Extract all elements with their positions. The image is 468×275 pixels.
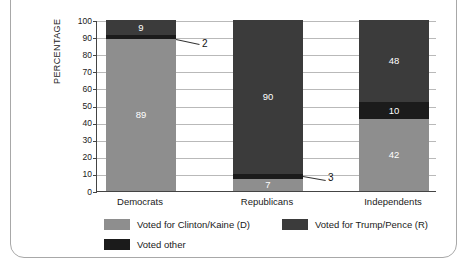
plot-area: 9 2 89 2 90 3 7 3	[96, 21, 436, 192]
callout-democrats-other: 2	[202, 39, 208, 49]
legend-label-other: Voted other	[137, 239, 186, 250]
segment-label-independents-other: 10	[389, 106, 400, 116]
tick-mark-0	[93, 192, 97, 193]
bar-democrats[interactable]: 9 2 89	[106, 20, 176, 191]
segment-label-republicans-clinton: 7	[265, 180, 270, 190]
tick-mark-80	[93, 55, 97, 56]
tick-mark-70	[93, 72, 97, 73]
segment-label-democrats-clinton: 89	[136, 110, 147, 120]
tick-mark-40	[93, 124, 97, 125]
tick-mark-50	[93, 107, 97, 108]
chart-legend: Voted for Clinton/Kaine (D) Voted for Tr…	[96, 219, 446, 259]
y-tick-60: 60	[66, 85, 92, 94]
callout-line-democrats-other	[176, 39, 200, 45]
legend-row-1: Voted for Clinton/Kaine (D) Voted for Tr…	[96, 219, 446, 239]
segment-independents-trump[interactable]: 48	[359, 20, 429, 102]
legend-item-other[interactable]: Voted other	[104, 239, 186, 250]
legend-item-clinton[interactable]: Voted for Clinton/Kaine (D)	[104, 219, 250, 230]
y-tick-40: 40	[66, 119, 92, 128]
legend-label-trump: Voted for Trump/Pence (R)	[315, 219, 428, 230]
tick-mark-10	[93, 175, 97, 176]
x-tick-democrats: Democrats	[85, 196, 195, 207]
legend-row-2: Voted other	[96, 239, 446, 259]
segment-independents-clinton[interactable]: 42	[359, 119, 429, 191]
callout-republicans-other: 3	[328, 173, 334, 183]
segment-label-independents-trump: 48	[389, 56, 400, 66]
y-tick-50: 50	[66, 102, 92, 111]
legend-label-clinton: Voted for Clinton/Kaine (D)	[137, 219, 250, 230]
segment-label-republicans-trump: 90	[263, 92, 274, 102]
x-tick-republicans: Republicans	[212, 196, 322, 207]
chart-figure: PERCENTAGE 100 90 80 70 60 50 40 30 20 1…	[0, 0, 468, 275]
bar-republicans[interactable]: 90 3 7	[233, 20, 303, 191]
y-tick-90: 90	[66, 34, 92, 43]
y-axis-title: PERCENTAGE	[52, 0, 62, 84]
segment-democrats-trump[interactable]: 9	[106, 20, 176, 35]
segment-republicans-trump[interactable]: 90	[233, 20, 303, 174]
y-tick-100: 100	[66, 17, 92, 26]
y-tick-20: 20	[66, 153, 92, 162]
y-tick-80: 80	[66, 51, 92, 60]
y-tick-70: 70	[66, 68, 92, 77]
y-tick-10: 10	[66, 170, 92, 179]
tick-mark-100	[93, 21, 97, 22]
legend-item-trump[interactable]: Voted for Trump/Pence (R)	[282, 219, 428, 230]
y-tick-30: 30	[66, 136, 92, 145]
tick-mark-60	[93, 89, 97, 90]
bar-independents[interactable]: 48 10 42	[359, 20, 429, 191]
tick-mark-30	[93, 141, 97, 142]
segment-republicans-clinton[interactable]: 7	[233, 179, 303, 191]
x-tick-independents: Independents	[338, 196, 448, 207]
segment-label-independents-clinton: 42	[389, 150, 400, 160]
legend-swatch-clinton-icon	[104, 219, 130, 230]
legend-swatch-other-icon	[104, 239, 130, 250]
legend-swatch-trump-icon	[282, 219, 308, 230]
tick-mark-90	[93, 38, 97, 39]
tick-mark-20	[93, 158, 97, 159]
segment-label-democrats-trump: 9	[138, 23, 143, 33]
callout-line-republicans-other	[303, 176, 326, 181]
segment-democrats-clinton[interactable]: 89	[106, 39, 176, 191]
segment-independents-other[interactable]: 10	[359, 102, 429, 119]
